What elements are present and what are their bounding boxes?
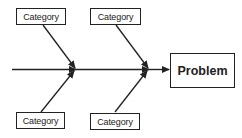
category-box-bottom-left: Category <box>16 112 65 129</box>
bone-top-right <box>116 25 148 68</box>
category-label: Category <box>97 117 133 127</box>
category-box-top-left: Category <box>16 8 66 25</box>
category-label: Category <box>98 12 134 22</box>
bone-bottom-left <box>41 71 74 112</box>
category-label: Category <box>23 12 59 22</box>
problem-label: Problem <box>177 64 227 78</box>
problem-box: Problem <box>170 53 235 88</box>
bone-bottom-right <box>115 71 147 112</box>
fishbone-diagram: Category Category Category Category Prob… <box>0 0 242 138</box>
category-label: Category <box>23 116 59 126</box>
bone-top-left <box>43 25 75 68</box>
category-box-top-right: Category <box>90 8 141 25</box>
category-box-bottom-right: Category <box>90 113 140 130</box>
